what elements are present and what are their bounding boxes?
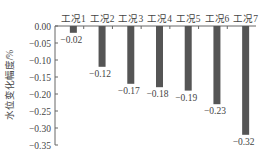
value-label: −0.23 (204, 106, 226, 116)
y-tick-label: −0.35 (29, 141, 51, 151)
y-tick-label: −0.30 (29, 124, 51, 134)
bar-chart: 水位变化幅度/% 0.00−0.05−0.10−0.15−0.20−0.25−0… (0, 0, 271, 161)
bar (185, 26, 192, 91)
bars: −0.02−0.12−0.17−0.18−0.19−0.23−0.32 (60, 26, 255, 147)
category-label: 工况6 (205, 14, 230, 24)
y-tick-label: −0.10 (29, 56, 51, 66)
y-axis-label: 水位变化幅度/% (4, 50, 15, 121)
value-label: −0.32 (233, 137, 255, 147)
category-label: 工况4 (147, 14, 172, 24)
y-tick-label: 0.00 (34, 22, 51, 32)
category-label: 工况3 (118, 14, 143, 24)
value-label: −0.18 (147, 89, 169, 99)
y-tick-label: −0.15 (29, 73, 51, 83)
bar (70, 26, 77, 33)
category-label: 工况7 (233, 14, 258, 24)
bar (99, 26, 106, 67)
value-label: −0.17 (118, 86, 140, 96)
bar (127, 26, 134, 84)
category-label: 工况5 (176, 14, 201, 24)
bar (156, 26, 163, 87)
y-tick-label: −0.05 (29, 39, 51, 49)
value-label: −0.12 (89, 69, 111, 79)
y-tick-label: −0.25 (29, 107, 51, 117)
category-label: 工况2 (90, 14, 115, 24)
bar (213, 26, 220, 104)
y-axis: 0.00−0.05−0.10−0.15−0.20−0.25−0.30−0.35 (29, 22, 58, 151)
y-tick-label: −0.20 (29, 90, 51, 100)
value-label: −0.02 (60, 35, 82, 45)
value-label: −0.19 (175, 93, 197, 103)
bar (242, 26, 249, 135)
category-label: 工况1 (61, 14, 86, 24)
